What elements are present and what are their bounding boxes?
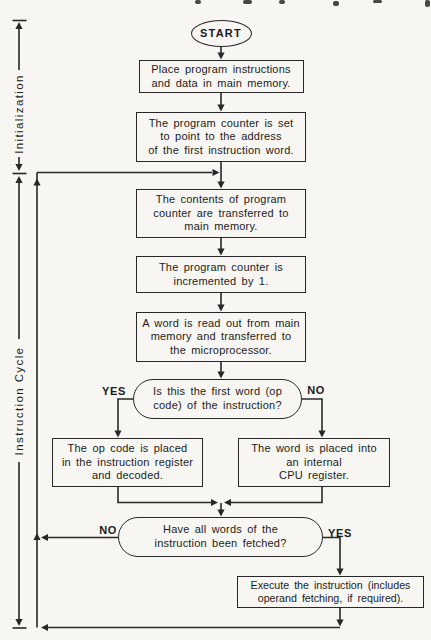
decision-first-word: Is this the first word (op code) of the … — [133, 379, 302, 419]
page-crop-text-remnant — [243, 0, 252, 4]
process-pc-to-memory: The contents of program counter are tran… — [136, 189, 306, 238]
bracket-label-instruction-cycle: Instruction Cycle — [12, 336, 26, 466]
process-read-word: A word is read out from main memory and … — [136, 312, 306, 362]
process-increment-pc: The program counter is incremented by 1. — [136, 256, 306, 293]
page-crop-text-remnant — [279, 0, 285, 4]
page-crop-text-remnant — [195, 0, 201, 4]
decision-all-words-fetched: Have all words of the instruction been f… — [118, 517, 323, 557]
process-word-to-cpu-register: The word is placed into an internal CPU … — [238, 438, 390, 487]
branch-label-yes-first-word: YES — [100, 385, 128, 397]
branch-label-no-all-words: NO — [96, 524, 120, 536]
page-root: Initialization Instruction Cycle START P… — [0, 0, 431, 640]
process-set-program-counter: The program counter is set to point to t… — [136, 112, 306, 162]
branch-label-no-first-word: NO — [303, 384, 329, 396]
process-execute-instruction: Execute the instruction (includes operan… — [237, 576, 424, 608]
branch-label-yes-all-words: YES — [325, 527, 355, 539]
bracket-label-initialization: Initialization — [12, 64, 26, 164]
page-crop-text-remnant — [333, 1, 339, 6]
process-load-program: Place program instructions and data in m… — [139, 60, 304, 93]
process-opcode-to-register: The op code is placed in the instruction… — [52, 438, 203, 487]
page-crop-text-remnant — [425, 0, 430, 7]
page-crop-text-remnant — [373, 0, 382, 3]
start-terminal: START — [191, 20, 252, 47]
